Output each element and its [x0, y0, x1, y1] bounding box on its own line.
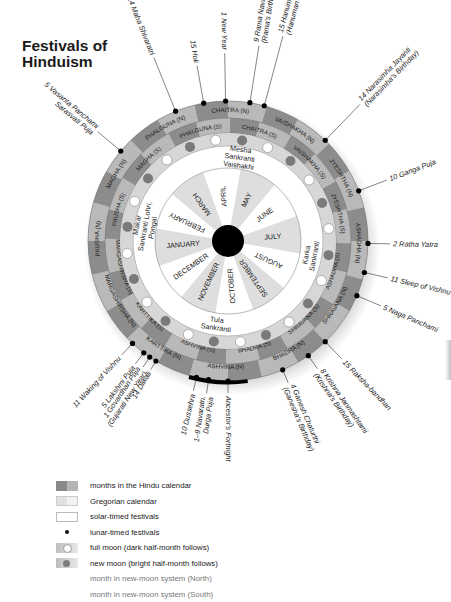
festival-leader-line — [154, 57, 176, 111]
legend-label: months in the Hindu calendar — [90, 481, 191, 490]
new-moon-icon — [317, 198, 327, 208]
full-moon-icon — [122, 248, 132, 258]
lunar-festival-dot — [247, 100, 252, 105]
legend-label: month in new-moon system (North) — [90, 574, 212, 583]
new-moon-icon — [303, 298, 313, 308]
lunar-festival-label: 9 Rama Navami(Rama's Birthday) — [252, 0, 278, 44]
lunar-festival-dot — [356, 188, 361, 193]
legend-label: solar-timed festivals — [90, 512, 159, 521]
lunar-festival-dot — [153, 358, 158, 363]
lunar-festival-dot — [173, 109, 178, 114]
legend-label: month in new-moon system (South) — [90, 590, 213, 599]
full-moon-icon — [183, 329, 193, 339]
lunar-festival-label: 15 Holi — [188, 39, 201, 64]
lunar-festival-dot — [225, 378, 230, 383]
gregorian-month-label: APRIL — [218, 185, 229, 206]
lunar-festival-label: 2 Ratha Yatra — [392, 239, 438, 249]
lunar-festival-dot — [194, 375, 199, 380]
legend-label: new moon (bright half-month follows) — [90, 559, 218, 568]
lunar-festival-label: 10 Ganga Puja — [388, 157, 437, 183]
full-moon-icon — [211, 135, 221, 145]
full-moon-icon — [284, 317, 294, 327]
lunar-festival-dot — [118, 148, 123, 153]
lunar-festival-label: 4 Ganesh Chaturthi(Ganesha's Birthday) — [281, 382, 324, 453]
new-moon-icon — [185, 142, 195, 152]
hindu-swatch-icon — [56, 481, 78, 491]
lunar-festival-dot — [201, 101, 206, 106]
legend-item: full moon (dark half-month follows) — [56, 540, 218, 556]
lunar-festival-label: 5 Vasanta PanchamiSarasvati Puja — [38, 80, 101, 137]
new-moon-icon — [261, 330, 271, 340]
lunar-festival-dot — [141, 350, 146, 355]
lunar-festival-dot — [354, 293, 359, 298]
legend-item: Gregorian calendar — [56, 494, 218, 510]
lunar-festival-dot — [323, 339, 328, 344]
new-swatch-icon — [56, 558, 78, 568]
lunar-festival-label: 11 Sleep of Vishnu — [390, 274, 451, 297]
lunar-festival-label: 14 Maha Shivaratri — [125, 0, 157, 57]
festival-leader-line — [250, 45, 259, 102]
full-moon-icon — [235, 337, 245, 347]
festival-leader-line — [98, 132, 121, 151]
lunar-festival-label: 15 Hanuman Jayanti(Hanuman's Birthday) — [276, 0, 311, 36]
center-hub — [212, 225, 244, 257]
lunar-festival-label: 14 Narasimha Jayanti(Narasimha's Birthda… — [356, 42, 421, 108]
legend-label: lunar-timed festivals — [90, 528, 159, 537]
legend-item: solar-timed festivals — [56, 509, 218, 525]
new-moon-icon — [209, 337, 219, 347]
lunar-festival-dot — [223, 98, 228, 103]
legend-label: Gregorian calendar — [90, 497, 157, 506]
new-moon-icon — [324, 250, 334, 260]
greg-swatch-icon — [56, 496, 78, 506]
full-moon-icon — [162, 155, 172, 165]
full-moon-icon — [263, 143, 273, 153]
legend-item: month in new-moon system (North) — [56, 571, 218, 587]
new-moon-icon — [285, 156, 295, 166]
legend-label: full moon (dark half-month follows) — [90, 543, 209, 552]
none-swatch-icon — [56, 574, 78, 584]
page-edge-shadow — [445, 340, 451, 380]
festival-leader-line — [197, 66, 204, 103]
lunar-festival-dot — [147, 354, 152, 359]
lunar-festival-dot — [280, 367, 285, 372]
festival-leader-line — [225, 53, 226, 101]
new-moon-icon — [129, 274, 139, 284]
legend-item: months in the Hindu calendar — [56, 478, 218, 494]
none-swatch-icon — [56, 589, 78, 599]
lunar-festival-dot — [306, 353, 311, 358]
full-swatch-icon — [56, 543, 78, 553]
gregorian-month-label: JULY — [264, 231, 282, 241]
lunar-swatch-icon — [56, 527, 78, 537]
lunar-festival-label: Ancestor's Fortnight — [224, 395, 233, 462]
lunar-festival-dot — [262, 103, 267, 108]
lunar-festival-dot — [130, 341, 135, 346]
full-moon-icon — [316, 276, 326, 286]
legend-item: month in new-moon system (South) — [56, 587, 218, 602]
festival-leader-line — [264, 36, 283, 106]
lunar-festival-dot — [206, 377, 211, 382]
lunar-festival-dot — [362, 270, 367, 275]
legend-item: lunar-timed festivals — [56, 525, 218, 541]
legend-item: new moon (bright half-month follows) — [56, 556, 218, 572]
new-moon-icon — [161, 316, 171, 326]
solar-swatch-icon — [56, 512, 78, 522]
full-moon-icon — [142, 297, 152, 307]
full-moon-icon — [324, 224, 334, 234]
new-moon-icon — [143, 174, 153, 184]
lunar-festival-dot — [323, 138, 328, 143]
festival-leader-line — [325, 104, 360, 140]
lunar-festival-label: 5 Naga Panchami — [382, 303, 440, 334]
full-moon-icon — [304, 175, 314, 185]
lunar-festival-dot — [365, 241, 370, 246]
full-moon-icon — [130, 196, 140, 206]
lunar-festival-label: 1 New Year — [220, 12, 230, 51]
legend: months in the Hindu calendarGregorian ca… — [56, 478, 218, 602]
